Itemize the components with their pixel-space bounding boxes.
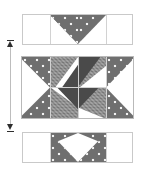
top-flying-geese-strip <box>22 14 133 45</box>
inner-top-right-unit <box>78 57 106 87</box>
bottom-seam-1 <box>50 133 51 162</box>
geese-right-dotted-triangle <box>78 15 106 44</box>
bottom-flying-geese-right <box>78 133 106 162</box>
bottom-flying-geese-left <box>50 133 78 162</box>
bottom-corner-square-right <box>106 133 132 162</box>
top-seam-2 <box>106 15 107 44</box>
quilt-diagram <box>0 0 149 169</box>
top-corner-square-right <box>106 15 132 44</box>
inner-top-left-unit <box>50 57 78 87</box>
arrow-down-head-icon <box>7 124 13 130</box>
assembly-direction-arrow <box>4 40 18 132</box>
arrow-shaft <box>10 45 11 127</box>
bottom-corner-square-left <box>23 133 50 162</box>
arrow-bottom-tick <box>7 131 14 132</box>
top-flying-geese-right <box>78 15 106 44</box>
center-seam-h1 <box>50 87 106 88</box>
right-star-point <box>106 57 133 118</box>
top-seam-1 <box>50 15 51 44</box>
inner-bottom-right-unit <box>78 87 106 118</box>
center-seam-v3 <box>106 57 107 118</box>
arrow-up-head-icon <box>7 41 13 47</box>
top-corner-square-left <box>23 15 50 44</box>
inner-bottom-left-unit <box>50 87 78 118</box>
bottom-flying-geese-strip <box>22 132 133 163</box>
top-flying-geese-left <box>50 15 78 44</box>
left-star-point <box>22 57 50 118</box>
center-pieced-block <box>21 56 134 119</box>
bottom-seam-2 <box>106 133 107 162</box>
geese-left-dotted-triangle <box>50 15 78 44</box>
